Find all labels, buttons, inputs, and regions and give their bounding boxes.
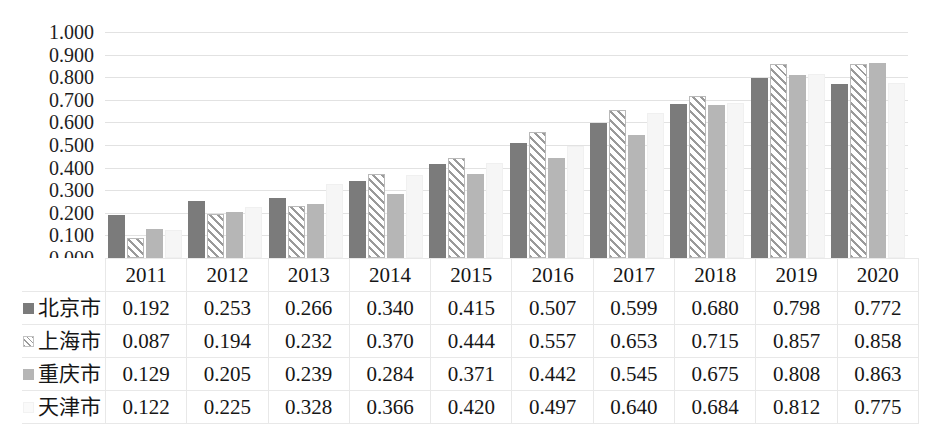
bar[interactable] bbox=[387, 194, 404, 258]
table-column-header: 2017 bbox=[593, 259, 674, 292]
table-row-header: 上海市 bbox=[22, 325, 106, 358]
table-cell: 0.415 bbox=[431, 292, 512, 325]
bar[interactable] bbox=[510, 143, 527, 258]
bar[interactable] bbox=[590, 123, 607, 258]
table-cell: 0.808 bbox=[756, 358, 837, 391]
table-cell: 0.284 bbox=[349, 358, 430, 391]
bar[interactable] bbox=[467, 174, 484, 258]
bar[interactable] bbox=[165, 230, 182, 258]
bar[interactable] bbox=[448, 158, 465, 258]
table-row: 天津市0.1220.2250.3280.3660.4200.4970.6400.… bbox=[22, 391, 918, 424]
bar[interactable] bbox=[486, 163, 503, 258]
table-cell: 0.129 bbox=[106, 358, 187, 391]
y-axis-tick-label: 0.800 bbox=[49, 67, 94, 87]
table-cell: 0.684 bbox=[675, 391, 756, 424]
table-cell: 0.371 bbox=[431, 358, 512, 391]
table-column-header: 2013 bbox=[268, 259, 349, 292]
table-corner-cell bbox=[22, 259, 106, 292]
bar[interactable] bbox=[288, 206, 305, 258]
bar[interactable] bbox=[808, 74, 825, 258]
bar[interactable] bbox=[269, 198, 286, 258]
table-cell: 0.192 bbox=[106, 292, 187, 325]
bar[interactable] bbox=[850, 64, 867, 258]
bar[interactable] bbox=[146, 229, 163, 258]
bar[interactable] bbox=[406, 175, 423, 258]
table-cell: 0.205 bbox=[187, 358, 268, 391]
table-column-header: 2020 bbox=[837, 259, 918, 292]
table-cell: 0.599 bbox=[593, 292, 674, 325]
bar[interactable] bbox=[770, 64, 787, 258]
series-name-label: 北京市 bbox=[38, 298, 101, 319]
legend-swatch-icon bbox=[23, 303, 34, 314]
table-cell: 0.340 bbox=[349, 292, 430, 325]
y-axis-tick-label: 0.500 bbox=[49, 135, 94, 155]
bars-layer bbox=[105, 32, 908, 258]
bar[interactable] bbox=[789, 75, 806, 258]
bar[interactable] bbox=[689, 96, 706, 258]
bar[interactable] bbox=[108, 215, 125, 258]
data-table-body: 2011201220132014201520162017201820192020… bbox=[22, 259, 918, 424]
table-cell: 0.497 bbox=[512, 391, 593, 424]
table-cell: 0.239 bbox=[268, 358, 349, 391]
table-column-header: 2011 bbox=[106, 259, 187, 292]
bar[interactable] bbox=[888, 83, 905, 258]
bar-group bbox=[266, 32, 346, 258]
y-axis-tick-label: 0.900 bbox=[49, 45, 94, 65]
table-column-header: 2014 bbox=[349, 259, 430, 292]
table-cell: 0.122 bbox=[106, 391, 187, 424]
table-cell: 0.857 bbox=[756, 325, 837, 358]
bar[interactable] bbox=[429, 164, 446, 258]
y-axis-tick-label: 0.700 bbox=[49, 90, 94, 110]
table-cell: 0.370 bbox=[349, 325, 430, 358]
table-cell: 0.225 bbox=[187, 391, 268, 424]
bar-group bbox=[185, 32, 265, 258]
data-table: 2011201220132014201520162017201820192020… bbox=[22, 258, 919, 424]
series-name-label: 天津市 bbox=[38, 397, 101, 418]
bar-group bbox=[507, 32, 587, 258]
table-cell: 0.798 bbox=[756, 292, 837, 325]
table-cell: 0.557 bbox=[512, 325, 593, 358]
bar[interactable] bbox=[831, 84, 848, 258]
bar[interactable] bbox=[609, 110, 626, 258]
bar-group bbox=[346, 32, 426, 258]
table-cell: 0.420 bbox=[431, 391, 512, 424]
bar[interactable] bbox=[647, 113, 664, 258]
bar-group bbox=[828, 32, 908, 258]
table-cell: 0.194 bbox=[187, 325, 268, 358]
table-cell: 0.812 bbox=[756, 391, 837, 424]
bar[interactable] bbox=[207, 214, 224, 258]
bar[interactable] bbox=[670, 104, 687, 258]
table-cell: 0.232 bbox=[268, 325, 349, 358]
table-row-header: 重庆市 bbox=[22, 358, 106, 391]
y-axis-tick-label: 1.000 bbox=[49, 22, 94, 42]
table-cell: 0.087 bbox=[106, 325, 187, 358]
table-cell: 0.253 bbox=[187, 292, 268, 325]
bar[interactable] bbox=[567, 146, 584, 258]
table-cell: 0.653 bbox=[593, 325, 674, 358]
table-cell: 0.266 bbox=[268, 292, 349, 325]
bar[interactable] bbox=[127, 238, 144, 258]
bar[interactable] bbox=[628, 135, 645, 258]
bar[interactable] bbox=[326, 184, 343, 258]
bar[interactable] bbox=[869, 63, 886, 258]
bar[interactable] bbox=[245, 207, 262, 258]
bar[interactable] bbox=[751, 78, 768, 258]
bar[interactable] bbox=[708, 105, 725, 258]
table-column-header: 2015 bbox=[431, 259, 512, 292]
grouped-bar-chart-with-data-table: 1.0000.9000.8000.7000.6000.5000.4000.300… bbox=[0, 0, 928, 440]
bar[interactable] bbox=[349, 181, 366, 258]
bar[interactable] bbox=[727, 103, 744, 258]
table-row-header: 北京市 bbox=[22, 292, 106, 325]
table-column-header: 2019 bbox=[756, 259, 837, 292]
y-axis-tick-label: 0.400 bbox=[49, 158, 94, 178]
table-row: 重庆市0.1290.2050.2390.2840.3710.4420.5450.… bbox=[22, 358, 918, 391]
bar[interactable] bbox=[548, 158, 565, 258]
table-cell: 0.680 bbox=[675, 292, 756, 325]
bar[interactable] bbox=[226, 212, 243, 258]
bar[interactable] bbox=[529, 132, 546, 258]
bar[interactable] bbox=[188, 201, 205, 258]
table-header-row: 2011201220132014201520162017201820192020 bbox=[22, 259, 918, 292]
bar[interactable] bbox=[307, 204, 324, 258]
legend-swatch-icon bbox=[23, 369, 34, 380]
bar[interactable] bbox=[368, 174, 385, 258]
